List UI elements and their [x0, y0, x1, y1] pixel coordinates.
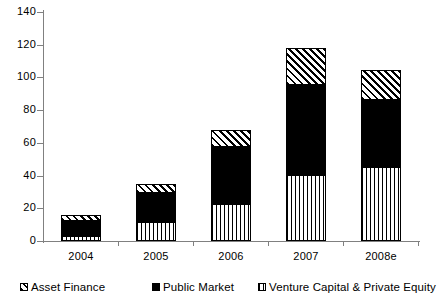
y-axis-tick-label: 40 [3, 170, 36, 181]
x-axis-tick [268, 241, 269, 246]
bar-segment [136, 222, 176, 241]
stacked-bar-chart: 020406080100120140 20042005200620072008e… [0, 0, 444, 303]
x-axis-category-label: 2007 [271, 250, 341, 262]
bar-segment [211, 130, 251, 147]
y-axis-tick-label: 80 [3, 104, 36, 115]
bar-segment [211, 204, 251, 241]
bar-stack [136, 12, 176, 241]
bar-stack [286, 12, 326, 241]
chart-legend: Asset FinancePublic MarketVenture Capita… [0, 279, 444, 299]
legend-label: Asset Finance [31, 281, 105, 294]
y-axis-line [43, 10, 44, 243]
bar-segment [361, 100, 401, 168]
y-axis-tick-label: 120 [3, 39, 36, 50]
x-axis-tick [193, 241, 194, 246]
x-axis-category-label: 2004 [46, 250, 116, 262]
y-axis-tick-label: 20 [3, 202, 36, 213]
y-axis-tick-label-wrap: 0 [0, 235, 36, 246]
y-axis-tick [37, 143, 43, 144]
y-axis-tick [37, 45, 43, 46]
y-axis-tick [37, 176, 43, 177]
y-axis-tick [37, 241, 43, 242]
y-axis-tick [37, 77, 43, 78]
y-axis-tick-label-wrap: 60 [0, 137, 36, 148]
bar-segment [61, 221, 101, 236]
bar-segment [286, 48, 326, 85]
bar-segment [136, 193, 176, 222]
x-axis-category-label: 2005 [121, 250, 191, 262]
x-axis-line [43, 241, 420, 242]
x-axis-tick [118, 241, 119, 246]
legend-item: Venture Capital & Private Equity [258, 279, 436, 295]
x-axis-category-label: 2008e [346, 250, 416, 262]
legend-swatch-icon [152, 283, 160, 291]
y-axis-tick-label-wrap: 120 [0, 39, 36, 50]
bar-stack [361, 12, 401, 241]
y-axis-tick-label: 100 [3, 71, 36, 82]
y-axis-tick [37, 12, 43, 13]
bar-segment [286, 175, 326, 241]
bar-segment [61, 215, 101, 222]
bar-segment [286, 85, 326, 175]
y-axis-tick [37, 110, 43, 111]
legend-swatch-icon [258, 283, 266, 291]
legend-item: Asset Finance [20, 279, 105, 295]
legend-item: Public Market [152, 279, 234, 295]
y-axis-tick-label-wrap: 100 [0, 71, 36, 82]
y-axis-tick-label: 140 [3, 6, 36, 17]
bar-segment [361, 70, 401, 99]
legend-label: Venture Capital & Private Equity [269, 281, 436, 294]
y-axis-tick-label-wrap: 80 [0, 104, 36, 115]
bar-stack [61, 12, 101, 241]
bar-segment [61, 236, 101, 241]
x-axis-category-label: 2006 [196, 250, 266, 262]
y-axis-tick [37, 208, 43, 209]
bar-stack [211, 12, 251, 241]
y-axis-tick-label-wrap: 40 [0, 170, 36, 181]
x-axis-tick [343, 241, 344, 246]
legend-swatch-icon [20, 283, 28, 291]
y-axis-tick-label: 60 [3, 137, 36, 148]
bar-segment [361, 167, 401, 241]
y-axis-tick-label: 0 [3, 235, 36, 246]
y-axis-tick-label-wrap: 20 [0, 202, 36, 213]
bar-segment [136, 184, 176, 193]
legend-label: Public Market [163, 281, 234, 294]
x-axis-tick [418, 241, 419, 246]
bar-segment [211, 147, 251, 204]
y-axis-tick-label-wrap: 140 [0, 6, 36, 17]
